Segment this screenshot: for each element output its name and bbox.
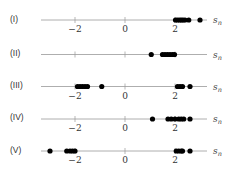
dot-row: (IV)−202sn [10, 112, 222, 133]
tick-label: 2 [172, 91, 178, 101]
axis-label: sn [213, 15, 222, 27]
tick-label: 2 [172, 155, 178, 165]
tick-label: 0 [122, 123, 128, 133]
tick-label: 2 [172, 24, 178, 34]
data-point [172, 52, 177, 57]
tick-label: 2 [172, 123, 178, 133]
row-label: (I) [10, 14, 18, 24]
tick-label: 0 [122, 91, 128, 101]
tick-label: −2 [68, 155, 81, 165]
data-point [47, 148, 52, 153]
dot-row: (II)sn [10, 48, 222, 62]
dot-row: (V)−202sn [10, 145, 222, 165]
row-label: (IV) [10, 112, 24, 122]
data-point [180, 84, 185, 89]
row-label: (III) [10, 80, 23, 90]
data-point [149, 52, 154, 57]
data-point [187, 116, 192, 121]
data-point [187, 84, 192, 89]
data-point [186, 17, 191, 22]
tick-label: −2 [68, 91, 81, 101]
tick-label: 0 [122, 24, 128, 34]
axis-label: sn [213, 114, 222, 126]
tick-label: −2 [68, 123, 81, 133]
dot-row: (III)−202sn [10, 80, 222, 101]
data-point [181, 116, 186, 121]
dot-row: (I)−202sn [10, 14, 222, 34]
tick-label: 0 [122, 155, 128, 165]
data-point [72, 148, 77, 153]
data-point [197, 17, 202, 22]
axis-label: sn [213, 146, 222, 158]
data-point [187, 148, 192, 153]
axis-label: sn [213, 50, 222, 62]
row-label: (V) [10, 145, 22, 155]
tick-label: −2 [68, 24, 81, 34]
row-label: (II) [10, 48, 21, 58]
dot-plot-chart: (I)−202sn(II)sn(III)−202sn(IV)−202sn(V)−… [0, 0, 235, 177]
data-point [99, 84, 104, 89]
data-point [180, 148, 185, 153]
axis-label: sn [213, 82, 222, 94]
data-point [85, 84, 90, 89]
data-point [150, 116, 155, 121]
